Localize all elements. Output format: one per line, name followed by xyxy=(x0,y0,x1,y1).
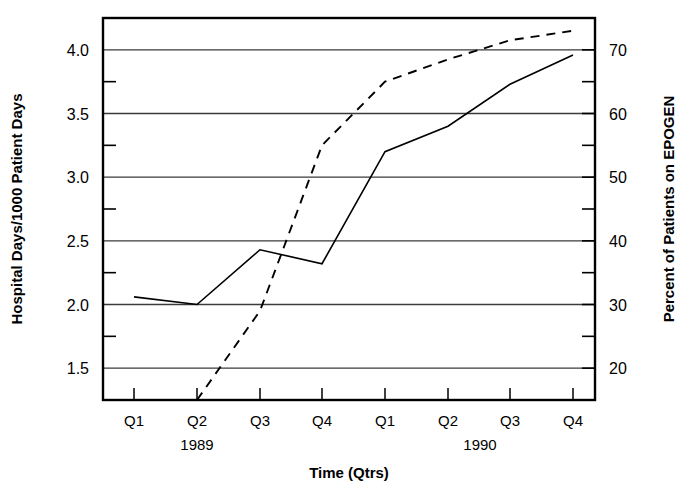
x-axis-title: Time (Qtrs) xyxy=(309,464,389,481)
x-category-label-5: Q2 xyxy=(438,412,458,429)
x-axis-category-labels: Q1Q2Q3Q4Q1Q2Q3Q4 xyxy=(124,412,583,429)
y-tick-label: 1.5 xyxy=(67,360,89,377)
x-year-label-1989: 1989 xyxy=(180,436,213,453)
x-category-label-6: Q3 xyxy=(500,412,520,429)
gridlines-group xyxy=(103,50,595,368)
right-axis-minor-ticks xyxy=(582,50,595,368)
series-percent-on-epogen xyxy=(197,31,573,400)
y-axis-title: Hospital Days/1000 Patient Days xyxy=(8,94,25,325)
x-axis-category-ticks xyxy=(134,388,573,400)
x-year-label-1990: 1990 xyxy=(463,436,496,453)
series-hospital-days xyxy=(134,55,573,305)
y-tick-label: 3.5 xyxy=(67,106,89,123)
y2-tick-label: 30 xyxy=(609,297,627,314)
y2-tick-label: 20 xyxy=(609,360,627,377)
y2-tick-label: 40 xyxy=(609,233,627,250)
x-category-label-4: Q1 xyxy=(375,412,395,429)
x-category-label-7: Q4 xyxy=(563,412,583,429)
line-chart: 1.52.02.53.03.54.0 203040506070 Q1Q2Q3Q4… xyxy=(0,0,696,500)
x-category-label-1: Q2 xyxy=(187,412,207,429)
x-axis-year-labels: 19891990 xyxy=(180,436,496,453)
left-axis-minor-ticks xyxy=(103,82,116,337)
y-tick-label: 2.0 xyxy=(67,297,89,314)
y-tick-label: 2.5 xyxy=(67,233,89,250)
y2-tick-label: 50 xyxy=(609,169,627,186)
left-axis-tick-labels: 1.52.02.53.03.54.0 xyxy=(67,42,89,377)
right-axis-tick-labels: 203040506070 xyxy=(609,42,627,377)
y2-axis-title: Percent of Patients on EPOGEN xyxy=(660,96,677,323)
chart-container: 1.52.02.53.03.54.0 203040506070 Q1Q2Q3Q4… xyxy=(0,0,696,500)
y2-tick-label: 60 xyxy=(609,106,627,123)
plot-frame xyxy=(103,18,595,400)
y-tick-label: 3.0 xyxy=(67,169,89,186)
y-tick-label: 4.0 xyxy=(67,42,89,59)
x-category-label-3: Q4 xyxy=(312,412,332,429)
y2-tick-label: 70 xyxy=(609,42,627,59)
x-category-label-2: Q3 xyxy=(250,412,270,429)
x-category-label-0: Q1 xyxy=(124,412,144,429)
